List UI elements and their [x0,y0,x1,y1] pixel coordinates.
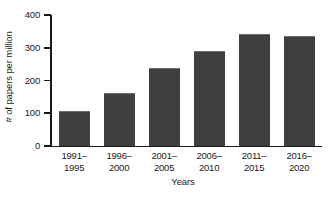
x-tick-label-line: 2011– [232,150,276,162]
x-tick-label: 2001–2005 [142,150,186,173]
x-tick-label: 1996–2000 [97,150,141,173]
bar [104,93,135,146]
x-tick-label-line: 2010 [187,162,231,174]
bar-slot [149,15,180,146]
bar [284,36,315,146]
x-tick-label: 2006–2010 [187,150,231,173]
y-tick-label: 300 [14,43,40,53]
x-tick-label-line: 2020 [277,162,321,174]
y-tick-label: 0 [14,141,40,151]
x-tick-label: 2011–2015 [232,150,276,173]
bar-slot [284,15,315,146]
bar [194,51,225,146]
x-tick-label-line: 2015 [232,162,276,174]
x-tick-label-line: 1991– [52,150,96,162]
bar-chart: # of papers per million 0100200300400 19… [0,0,331,201]
x-tick-label: 1991–1995 [52,150,96,173]
y-tick-label: 400 [14,10,40,20]
y-tick-mark [44,80,51,82]
x-axis-title: Years [44,176,322,187]
x-tick-label-line: 1996– [97,150,141,162]
x-tick-label-line: 2000 [97,162,141,174]
x-tick-label-line: 2006– [187,150,231,162]
y-tick-mark [44,14,51,16]
bar-slot [59,15,90,146]
bar-slot [239,15,270,146]
bar-slot [104,15,135,146]
y-tick-mark [44,145,51,147]
bar [149,68,180,146]
bar [239,34,270,146]
y-tick-label: 100 [14,108,40,118]
plot-area [52,15,322,146]
x-tick-label-line: 2016– [277,150,321,162]
bar [59,111,90,146]
x-tick-label: 2016–2020 [277,150,321,173]
x-tick-label-line: 1995 [52,162,96,174]
x-tick-label-line: 2005 [142,162,186,174]
y-tick-mark [44,112,51,114]
y-tick-mark [44,47,51,49]
y-tick-label: 200 [14,76,40,86]
x-tick-label-line: 2001– [142,150,186,162]
bar-slot [194,15,225,146]
